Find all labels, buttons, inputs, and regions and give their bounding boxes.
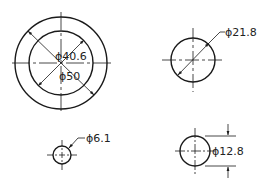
small-diameter-label: ϕ6.1 bbox=[86, 132, 111, 145]
outer-diameter-label: ϕ50 bbox=[59, 70, 80, 83]
linear-diameter-label: ϕ12.8 bbox=[212, 145, 244, 158]
technical-drawing: ϕ40.6 ϕ50 ϕ21.8 ϕ6.1 ϕ12.8 bbox=[0, 0, 265, 182]
inner-diameter-label: ϕ40.6 bbox=[55, 50, 87, 63]
medium-hole-view bbox=[162, 28, 225, 92]
medium-diameter-label: ϕ21.8 bbox=[225, 26, 257, 39]
small-hole-view bbox=[47, 138, 85, 172]
